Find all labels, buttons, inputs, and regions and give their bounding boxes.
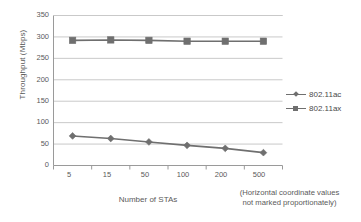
- data-point: [107, 135, 114, 142]
- x-tick-5: 5: [49, 170, 89, 179]
- data-point: [260, 38, 266, 44]
- data-point: [146, 37, 152, 43]
- x-tick-200: 200: [201, 170, 241, 179]
- data-point: [108, 37, 114, 43]
- x-tick-500: 500: [239, 170, 279, 179]
- data-point: [222, 145, 229, 152]
- data-point: [260, 149, 267, 156]
- data-point: [184, 38, 190, 44]
- legend-swatch-square-icon: [286, 103, 306, 113]
- legend-item-80211ax[interactable]: 802.11ax: [286, 102, 361, 114]
- data-point: [69, 37, 75, 43]
- legend-item-80211ac[interactable]: 802.11ac: [286, 88, 361, 100]
- axis-note-line-1: (Horizontal coordinate values: [218, 188, 361, 198]
- series-line-80211ax: [73, 40, 264, 41]
- axis-note: (Horizontal coordinate values not marked…: [218, 188, 361, 207]
- legend-swatch-diamond-icon: [286, 89, 306, 99]
- x-tick-15: 15: [87, 170, 127, 179]
- data-point: [184, 142, 191, 149]
- legend-label-80211ac: 802.11ac: [309, 90, 341, 99]
- chart-legend: 802.11ac 802.11ax: [286, 88, 361, 116]
- data-point: [69, 133, 76, 140]
- legend-label-80211ax: 802.11ax: [309, 104, 341, 113]
- axis-note-line-2: not marked proportionately): [218, 198, 361, 208]
- x-tick-50: 50: [125, 170, 165, 179]
- data-point: [222, 38, 228, 44]
- x-tick-100: 100: [163, 170, 203, 179]
- throughput-line-chart: Throughput (Mbps) 350 300 250 200 150 10…: [0, 0, 361, 222]
- x-axis-title: Number of STAs: [98, 195, 198, 204]
